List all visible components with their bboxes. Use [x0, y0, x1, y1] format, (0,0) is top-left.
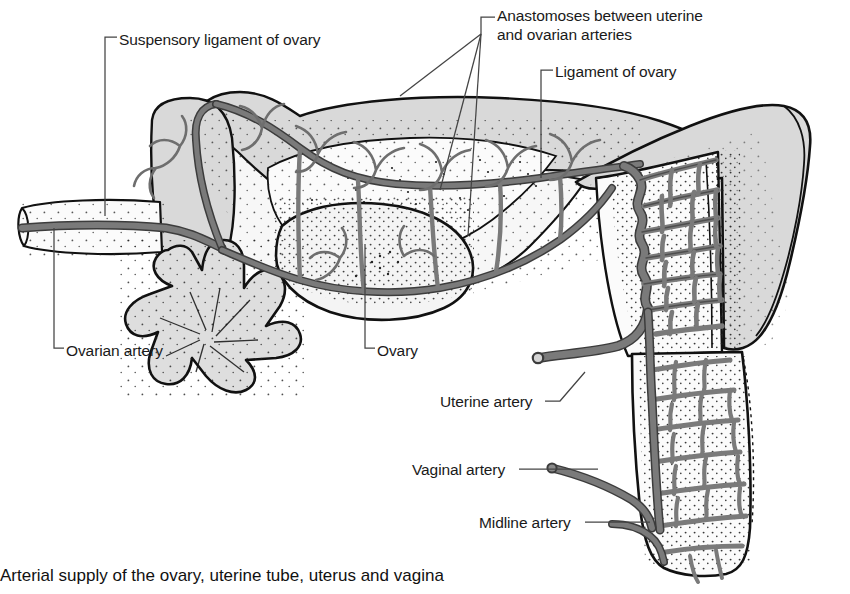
leader-suspensory-ligament — [105, 37, 117, 216]
label-anastomoses-line1: Anastomoses between uterine — [497, 7, 703, 24]
label-anastomoses-line2: and ovarian arteries — [497, 26, 632, 43]
label-ovary: Ovary — [377, 341, 418, 360]
label-uterine-artery: Uterine artery — [440, 392, 533, 411]
figure-caption: Arterial supply of the ovary, uterine tu… — [0, 566, 850, 586]
anatomical-figure: Suspensory ligament of ovary Anastomoses… — [0, 0, 850, 594]
anatomy-illustration — [0, 0, 850, 594]
leader-anastomoses-a — [400, 34, 481, 96]
label-vaginal-artery: Vaginal artery — [412, 460, 505, 479]
label-midline-artery: Midline artery — [479, 513, 571, 532]
label-suspensory-ligament-of-ovary: Suspensory ligament of ovary — [119, 30, 320, 49]
leader-anastomoses-stem — [481, 17, 495, 34]
label-anastomoses: Anastomoses between uterine and ovarian … — [497, 6, 777, 44]
leader-uterine-artery — [545, 372, 585, 401]
fimbriae — [120, 240, 306, 396]
label-ligament-of-ovary: Ligament of ovary — [555, 62, 677, 81]
label-ovarian-artery: Ovarian artery — [66, 341, 163, 360]
